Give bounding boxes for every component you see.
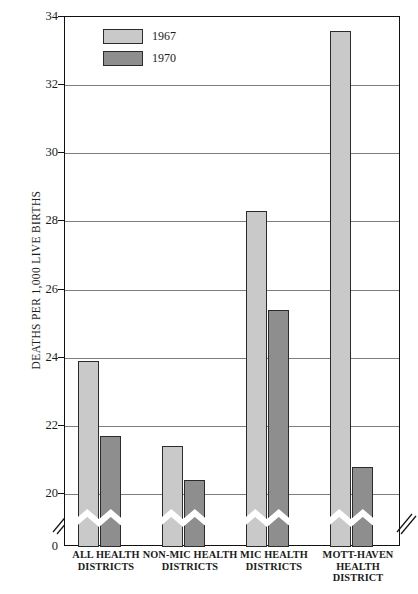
y-tick-label: 22: [18, 417, 58, 432]
bar-1967-group-3: [246, 211, 267, 547]
y-tick-label: 26: [18, 281, 58, 296]
x-category-label-line: NON-MIC HEALTH: [142, 549, 238, 561]
bar-1967-group-1: [78, 361, 99, 547]
legend-swatch-1970: [103, 51, 143, 66]
bar-1970-group-2: [184, 480, 205, 547]
y-tick-label: 24: [18, 349, 58, 364]
legend-label-1967: 1967: [152, 29, 176, 44]
legend-item-1970: 1970: [103, 49, 176, 68]
legend-swatch-1967: [103, 29, 143, 44]
x-category-label-line: DISTRICTS: [142, 561, 238, 573]
x-category-label-line: DISTRICTS: [226, 561, 322, 573]
y-axis-title: DEATHS PER 1,000 LIVE BIRTHS: [30, 150, 42, 410]
x-category-label-line: HEALTH DISTRICT: [310, 561, 406, 584]
bar-1970-group-1: [100, 436, 121, 547]
right-axis-break-icon: [396, 510, 418, 536]
plot-area: 1967 1970: [64, 16, 400, 546]
legend-label-1970: 1970: [152, 51, 176, 66]
x-axis-labels: ALL HEALTHDISTRICTSNON-MIC HEALTHDISTRIC…: [64, 549, 400, 583]
legend-item-1967: 1967: [103, 27, 176, 46]
y-tick-label: 30: [18, 145, 58, 160]
bar-1967-group-2: [162, 446, 183, 547]
x-category-label-line: DISTRICTS: [58, 561, 154, 573]
bar-1967-group-4: [330, 31, 351, 547]
x-category-label: NON-MIC HEALTHDISTRICTS: [142, 549, 238, 572]
y-tick-label: 20: [18, 486, 58, 501]
x-category-label: MOTT-HAVENHEALTH DISTRICT: [310, 549, 406, 584]
x-category-label: ALL HEALTHDISTRICTS: [58, 549, 154, 572]
x-category-label-line: MOTT-HAVEN: [310, 549, 406, 561]
y-tick-label-zero: 0: [18, 539, 58, 554]
y-tick-label: 34: [18, 9, 58, 24]
y-tick-label: 32: [18, 77, 58, 92]
y-tick-label: 28: [18, 213, 58, 228]
x-category-label-line: ALL HEALTH: [58, 549, 154, 561]
bar-1970-group-3: [268, 310, 289, 547]
x-category-label-line: MIC HEALTH: [226, 549, 322, 561]
bar-1970-group-4: [352, 467, 373, 547]
legend: 1967 1970: [103, 27, 176, 71]
x-category-label: MIC HEALTHDISTRICTS: [226, 549, 322, 572]
